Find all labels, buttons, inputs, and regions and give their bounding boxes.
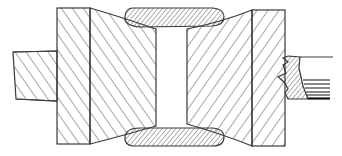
right-shaft-break: [278, 56, 333, 99]
bottom-ring-section: [125, 128, 224, 146]
left-tapered-hub: [90, 8, 156, 144]
left-shaft: [13, 51, 57, 101]
top-ring-section: [125, 8, 224, 27]
coupling-cross-section-drawing: [0, 0, 342, 156]
right-tapered-hub: [187, 10, 252, 146]
left-flange: [57, 8, 90, 144]
